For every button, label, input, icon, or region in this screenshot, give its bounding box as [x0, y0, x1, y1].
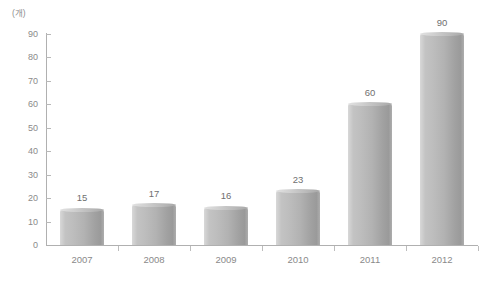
- x-axis-category-label: 2008: [119, 255, 189, 265]
- y-axis-tick-label: 40: [16, 147, 38, 156]
- bar-item: 23: [276, 191, 320, 245]
- bar-top-cap: [60, 208, 104, 212]
- bar-item: 15: [60, 210, 104, 245]
- bar-item: 60: [348, 104, 392, 245]
- x-axis-tick: [190, 246, 191, 251]
- bar-top-cap: [348, 102, 392, 106]
- x-axis-category-label: 2007: [47, 255, 117, 265]
- x-axis-tick: [334, 246, 335, 251]
- y-axis-tick-label: 70: [16, 77, 38, 86]
- bar-item: 17: [132, 205, 176, 245]
- bar-top-cap: [204, 206, 248, 210]
- bar-top-cap: [276, 189, 320, 193]
- bar-item: 16: [204, 208, 248, 246]
- y-axis-tick: [46, 104, 51, 105]
- bar-value-label: 60: [348, 88, 392, 98]
- bar-value-label: 15: [60, 193, 104, 203]
- bar: [276, 191, 320, 245]
- bar: [348, 104, 392, 245]
- y-axis-tick: [46, 151, 51, 152]
- bar-value-label: 23: [276, 175, 320, 185]
- bar-top-cap: [420, 32, 464, 36]
- y-axis-tick: [46, 81, 51, 82]
- x-axis-tick: [478, 246, 479, 251]
- bar-chart: (개) 0102030405060708090 151716236090 200…: [0, 0, 492, 283]
- y-axis-tick: [46, 128, 51, 129]
- x-axis-tick: [118, 246, 119, 251]
- bar: [132, 205, 176, 245]
- y-axis-tick: [46, 34, 51, 35]
- y-axis-line: [46, 33, 47, 246]
- y-axis-tick-label: 0: [16, 241, 38, 250]
- y-axis-tick-label: 60: [16, 100, 38, 109]
- x-axis-category-label: 2012: [407, 255, 477, 265]
- bar: [204, 208, 248, 246]
- y-axis-tick-label: 30: [16, 171, 38, 180]
- x-axis-tick: [406, 246, 407, 251]
- x-axis-category-label: 2009: [191, 255, 261, 265]
- x-axis-category-label: 2011: [335, 255, 405, 265]
- bar-item: 90: [420, 34, 464, 245]
- y-axis-tick-label: 10: [16, 218, 38, 227]
- y-axis-tick: [46, 222, 51, 223]
- bar: [60, 210, 104, 245]
- x-axis-tick: [262, 246, 263, 251]
- bar-value-label: 16: [204, 191, 248, 201]
- y-axis-tick: [46, 198, 51, 199]
- y-axis-unit-label: (개): [12, 6, 26, 18]
- bar-value-label: 17: [132, 189, 176, 199]
- y-axis-tick: [46, 175, 51, 176]
- bar-value-label: 90: [420, 18, 464, 28]
- y-axis-tick: [46, 57, 51, 58]
- bar: [420, 34, 464, 245]
- y-axis-tick-label: 50: [16, 124, 38, 133]
- y-axis-tick-label: 20: [16, 194, 38, 203]
- bar-top-cap: [132, 203, 176, 207]
- x-axis-category-label: 2010: [263, 255, 333, 265]
- y-axis-tick-label: 90: [16, 30, 38, 39]
- y-axis-tick-label: 80: [16, 53, 38, 62]
